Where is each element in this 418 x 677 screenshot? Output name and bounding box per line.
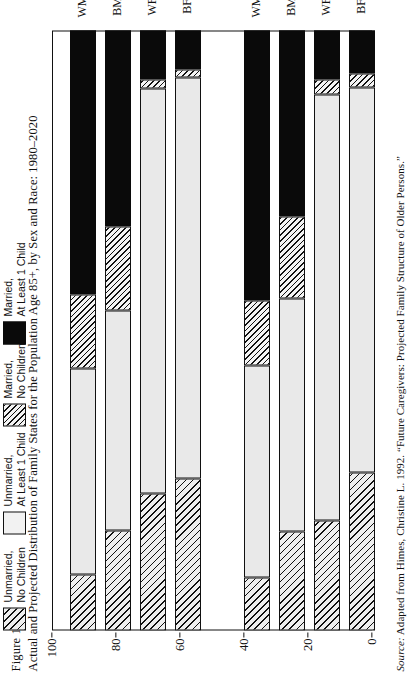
- y-tick-label: 20: [301, 638, 316, 651]
- bar-segment-mar-kid: [70, 30, 96, 294]
- category-label-2000-WM: WM: [249, 0, 264, 17]
- chart-legend: Unmarried,No ChildrenUnmarried,At Least …: [2, 30, 50, 630]
- bar-2000-WM: [244, 30, 270, 630]
- legend-label-line1: Married,: [2, 242, 15, 316]
- category-label-2000-BM: BM: [284, 0, 299, 15]
- y-tick-label: 80: [109, 638, 124, 651]
- bar-segment-mar-nokid: [105, 226, 131, 310]
- y-tick-label: 40: [237, 638, 252, 651]
- y-axis: 020406080100: [52, 632, 372, 672]
- bar-segment-mar-kid: [175, 30, 201, 69]
- figure-page: Figure 19.6 Actual and Projected Distrib…: [0, 0, 418, 677]
- bar-segment-mar-kid: [314, 30, 340, 79]
- bar-segment-mar-nokid: [244, 300, 270, 365]
- bar-segment-unmar-nokid: [140, 493, 166, 630]
- category-label-1980-BM: BM: [110, 0, 125, 15]
- bar-2000-WF: [314, 30, 340, 630]
- legend-swatch-unmar-nokid: [3, 607, 26, 630]
- legend-label-line2: No Children: [15, 343, 28, 398]
- bar-segment-unmar-kid: [105, 310, 131, 531]
- bar-segment-mar-kid: [244, 30, 270, 300]
- legend-swatch-mar-nokid: [3, 403, 26, 426]
- bar-segment-unmar-kid: [349, 87, 375, 472]
- figure-source: Source: Adapted from Himes, Christine L.…: [394, 3, 406, 671]
- bar-segment-mar-nokid: [314, 79, 340, 95]
- y-tick-mark: [243, 632, 244, 637]
- legend-label-unmar-kid: Unmarried,At Least 1 Child: [2, 432, 27, 506]
- legend-item-unmar-kid: Unmarried,At Least 1 Child: [2, 432, 27, 534]
- y-tick-label: 100: [45, 638, 60, 657]
- category-label-2000-WF: WF: [319, 0, 334, 15]
- y-tick-mark: [307, 632, 308, 637]
- bar-segment-unmar-nokid: [175, 478, 201, 630]
- chart-plot-area: 020406080100 Percentage WMBMWFBFWMBMWFBF…: [52, 30, 372, 630]
- bar-segment-mar-kid: [140, 30, 166, 79]
- bar-segment-unmar-nokid: [70, 574, 96, 630]
- bar-segment-unmar-kid: [314, 94, 340, 520]
- bar-segment-mar-kid: [349, 30, 375, 73]
- legend-label-mar-kid: Married,At Least 1 Child: [2, 242, 27, 316]
- bar-segment-unmar-kid: [244, 365, 270, 576]
- bar-2000-BM: [279, 30, 305, 630]
- bar-2000-BF: [349, 30, 375, 630]
- y-tick-label: 0: [365, 638, 380, 644]
- legend-label-line2: No Children: [15, 547, 28, 602]
- bar-1980-BF: [175, 30, 201, 630]
- legend-swatch-mar-kid: [3, 321, 26, 344]
- legend-label-line1: Unmarried,: [2, 432, 15, 506]
- bar-1980-WM: [70, 30, 96, 630]
- y-tick-mark: [179, 632, 180, 637]
- bar-segment-mar-kid: [105, 30, 131, 226]
- category-label-1980-WF: WF: [145, 0, 160, 15]
- bar-segment-unmar-nokid: [279, 531, 305, 630]
- legend-label-mar-nokid: Married,No Children: [2, 343, 27, 398]
- legend-label-unmar-nokid: Unmarried,No Children: [2, 547, 27, 602]
- legend-label-line1: Unmarried,: [2, 547, 15, 602]
- bar-segment-mar-nokid: [175, 69, 201, 77]
- bar-segment-mar-nokid: [349, 73, 375, 87]
- category-label-1980-WM: WM: [75, 0, 90, 17]
- bar-segment-unmar-kid: [70, 368, 96, 573]
- source-prefix: Source:: [394, 637, 406, 671]
- legend-item-mar-kid: Married,At Least 1 Child: [2, 242, 27, 344]
- bar-segment-unmar-nokid: [105, 530, 131, 630]
- y-tick-mark: [115, 632, 116, 637]
- source-text: Adapted from Himes, Christine L. 1992. “…: [394, 156, 406, 637]
- bar-1980-BM: [105, 30, 131, 630]
- legend-swatch-unmar-kid: [3, 511, 26, 534]
- bar-segment-unmar-kid: [140, 88, 166, 492]
- bar-segment-unmar-nokid: [349, 472, 375, 630]
- legend-label-line2: At Least 1 Child: [15, 432, 28, 506]
- bar-segment-mar-kid: [279, 30, 305, 216]
- bar-segment-mar-nokid: [140, 79, 166, 89]
- legend-item-unmar-nokid: Unmarried,No Children: [2, 547, 27, 630]
- legend-label-line2: At Least 1 Child: [15, 242, 28, 316]
- bar-segment-unmar-nokid: [314, 520, 340, 630]
- category-label-1980-BF: BF: [180, 0, 195, 13]
- bar-segment-mar-nokid: [70, 294, 96, 368]
- bar-segment-unmar-kid: [175, 77, 201, 478]
- y-tick-mark: [371, 632, 372, 637]
- y-tick-label: 60: [173, 638, 188, 651]
- legend-label-line1: Married,: [2, 343, 15, 398]
- y-tick-mark: [51, 632, 52, 637]
- bar-segment-mar-nokid: [279, 216, 305, 298]
- legend-item-mar-nokid: Married,No Children: [2, 343, 27, 426]
- bar-segment-unmar-nokid: [244, 577, 270, 630]
- bar-segment-unmar-kid: [279, 298, 305, 531]
- bar-1980-WF: [140, 30, 166, 630]
- category-label-2000-BF: BF: [354, 0, 369, 13]
